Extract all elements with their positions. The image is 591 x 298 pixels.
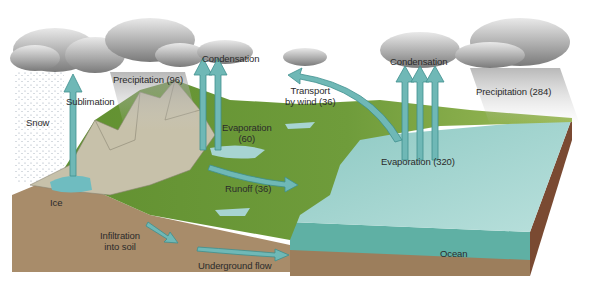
label-runoff: Runoff (36) — [225, 183, 271, 194]
cloud-small — [283, 48, 327, 66]
label-precipitation-ocean: Precipitation (284) — [476, 86, 551, 97]
label-evaporation-land-line1: Evaporation — [222, 122, 272, 133]
label-precipitation-land: Precipitation (96) — [113, 74, 183, 85]
label-evaporation-land-line2: (60) — [222, 133, 272, 144]
label-transport-wind: Transport by wind (36) — [285, 85, 336, 107]
label-condensation-ocean: Condensation — [390, 56, 447, 67]
label-condensation-land: Condensation — [202, 53, 259, 64]
label-infiltration-line1: Infiltration — [100, 230, 140, 241]
label-sublimation: Sublimation — [66, 96, 115, 107]
label-infiltration: Infiltration into soil — [100, 230, 140, 252]
water-cycle-illustration — [0, 0, 591, 298]
label-infiltration-line2: into soil — [100, 241, 140, 252]
label-transport-line1: Transport — [285, 85, 336, 96]
label-ice: Ice — [50, 197, 62, 208]
label-underground-flow: Underground flow — [198, 260, 271, 271]
label-transport-line2: by wind (36) — [285, 96, 336, 107]
label-snow: Snow — [26, 117, 49, 128]
label-evaporation-land: Evaporation (60) — [222, 122, 272, 144]
cloud-right — [455, 18, 570, 68]
label-evaporation-ocean: Evaporation (320) — [381, 156, 455, 167]
cloud-left — [10, 18, 205, 73]
label-ocean: Ocean — [440, 248, 468, 259]
